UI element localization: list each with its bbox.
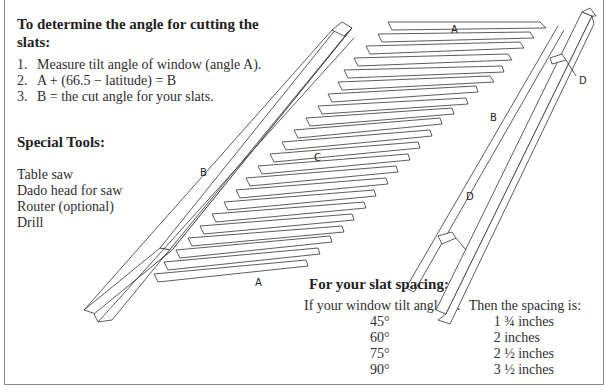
cut-angle-heading: To determine the angle for cutting the s… (17, 15, 277, 51)
table-row: 60° 2 inches (304, 330, 581, 346)
column-header-spacing: Then the spacing is: (469, 298, 581, 314)
angle-cell: 60° (304, 330, 469, 346)
angle-cell: 75° (304, 346, 469, 362)
column-header-angle: If your window tilt angle is: (304, 298, 469, 314)
slat-spacing-table: If your window tilt angle is: Then the s… (304, 298, 581, 378)
slat-spacing-heading: For your slat spacing: (309, 275, 449, 293)
step-text: Measure tilt angle of window (angle A). (37, 57, 261, 73)
table-header-row: If your window tilt angle is: Then the s… (304, 298, 581, 314)
step-item: 1.Measure tilt angle of window (angle A)… (17, 57, 261, 73)
special-tools-heading: Special Tools: (17, 133, 105, 151)
cut-angle-steps: 1.Measure tilt angle of window (angle A)… (17, 57, 261, 105)
step-text: A + (66.5 − latitude) = B (37, 73, 176, 89)
tool-item: Dado head for saw (17, 183, 122, 199)
special-tools-list: Table saw Dado head for saw Router (opti… (17, 167, 122, 231)
step-text: B = the cut angle for your slats. (37, 89, 214, 105)
angle-cell: 90° (304, 362, 469, 378)
angle-cell: 45° (304, 314, 469, 330)
table-row: 45° 1 ¾ inches (304, 314, 581, 330)
spacing-cell: 1 ¾ inches (469, 314, 581, 330)
table-row: 90° 3 ½ inches (304, 362, 581, 378)
tool-item: Drill (17, 215, 122, 231)
step-number: 3. (17, 89, 37, 105)
tool-item: Table saw (17, 167, 122, 183)
table-row: 75° 2 ½ inches (304, 346, 581, 362)
tool-item: Router (optional) (17, 199, 122, 215)
step-number: 2. (17, 73, 37, 89)
spacing-cell: 3 ½ inches (469, 362, 581, 378)
spacing-cell: 2 inches (469, 330, 581, 346)
spacing-cell: 2 ½ inches (469, 346, 581, 362)
step-item: 3.B = the cut angle for your slats. (17, 89, 261, 105)
step-item: 2.A + (66.5 − latitude) = B (17, 73, 261, 89)
step-number: 1. (17, 57, 37, 73)
